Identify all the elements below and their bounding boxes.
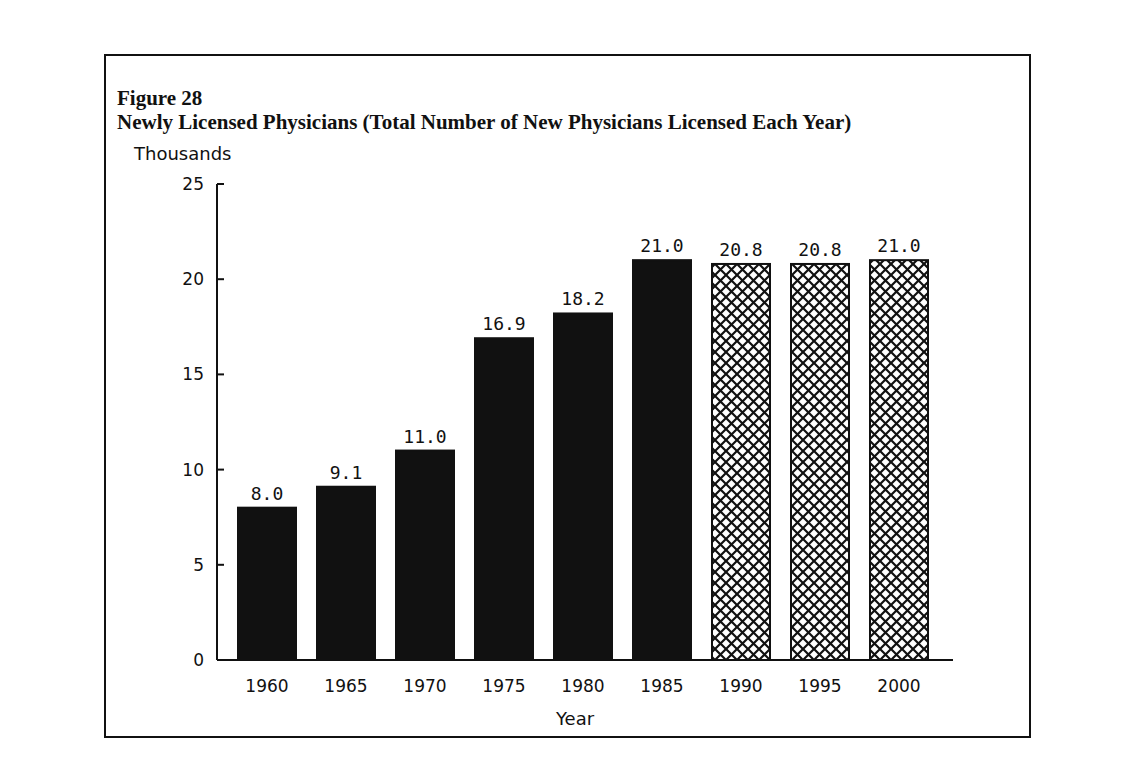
x-axis-label: Year [556, 708, 594, 729]
value-label: 20.8 [798, 239, 841, 260]
x-tick-label: 1965 [324, 676, 367, 696]
value-label: 16.9 [482, 313, 525, 334]
value-label: 11.0 [403, 426, 446, 447]
bar-1970 [396, 451, 454, 660]
bar-1975 [475, 338, 533, 660]
y-tick-label: 15 [182, 364, 204, 384]
value-label: 8.0 [251, 483, 284, 504]
bar-1965 [317, 487, 375, 660]
y-tick-label: 0 [193, 650, 204, 670]
bars: 8.019609.1196511.0197016.9197518.2198021… [238, 235, 928, 696]
x-tick-label: 2000 [877, 676, 920, 696]
value-label: 21.0 [877, 235, 920, 256]
y-tick-label: 25 [182, 174, 204, 194]
x-tick-label: 1985 [640, 676, 683, 696]
value-label: 21.0 [640, 235, 683, 256]
x-tick-label: 1980 [561, 676, 604, 696]
value-label: 20.8 [719, 239, 762, 260]
bar-1990 [712, 264, 770, 660]
x-tick-label: 1970 [403, 676, 446, 696]
x-tick-label: 1990 [719, 676, 762, 696]
bar-1985 [633, 260, 691, 660]
value-label: 18.2 [561, 288, 604, 309]
bar-chart: 0510152025 8.019609.1196511.0197016.9197… [0, 0, 1133, 769]
value-label: 9.1 [330, 462, 363, 483]
x-tick-label: 1995 [798, 676, 841, 696]
bar-1960 [238, 508, 296, 660]
bar-1980 [554, 313, 612, 660]
x-tick-label: 1960 [245, 676, 288, 696]
x-tick-label: 1975 [482, 676, 525, 696]
y-tick-label: 20 [182, 269, 204, 289]
y-tick-label: 5 [193, 555, 204, 575]
bar-2000 [870, 260, 928, 660]
y-tick-label: 10 [182, 460, 204, 480]
bar-1995 [791, 264, 849, 660]
